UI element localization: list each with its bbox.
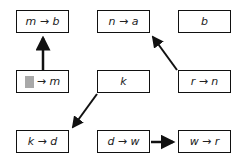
arrow-b11-to-b20 xyxy=(73,94,97,127)
blank-placeholder[interactable] xyxy=(25,76,34,88)
box-m-to-b: m → b xyxy=(16,10,69,33)
box-label: m → b xyxy=(26,15,60,28)
box-blank-to-m: → m xyxy=(16,70,69,93)
box-label: b xyxy=(201,15,208,28)
box-label: w → r xyxy=(190,135,220,148)
box-label: n → a xyxy=(109,15,139,28)
box-k-to-d: k → d xyxy=(16,130,69,153)
box-k: k xyxy=(97,70,150,93)
arrow-b12-to-b01 xyxy=(153,37,177,70)
box-label: k xyxy=(120,75,126,88)
box-label: r → n xyxy=(191,75,219,88)
box-d-to-w: d → w xyxy=(97,130,150,153)
box-b: b xyxy=(178,10,231,33)
box-label: k → d xyxy=(28,135,58,148)
box-r-to-n: r → n xyxy=(178,70,231,93)
box-w-to-r: w → r xyxy=(178,130,231,153)
box-n-to-a: n → a xyxy=(97,10,150,33)
box-label: d → w xyxy=(107,135,139,148)
box-label: → m xyxy=(37,75,60,88)
